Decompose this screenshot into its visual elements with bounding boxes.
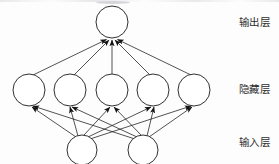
node-output-1 (96, 6, 128, 38)
neural-network-diagram: 输出层 隐藏层 输入层 (0, 0, 279, 164)
edge-h5-o1 (118, 40, 192, 76)
edge-i2-h5 (149, 107, 192, 137)
layer-label-input: 输入层 (239, 136, 270, 148)
node-group-input-layer (67, 135, 158, 164)
edge-h4-o1 (115, 40, 150, 75)
node-input-1 (67, 135, 97, 164)
edge-i2-h1 (33, 106, 135, 139)
edge-i2-h3 (114, 107, 141, 135)
network-graph-canvas (0, 0, 279, 164)
node-group-hidden-layer (13, 74, 210, 106)
edge-h1-o1 (33, 40, 107, 76)
edge-h2-o1 (74, 40, 109, 75)
node-hidden-2 (54, 74, 86, 106)
node-hidden-4 (137, 74, 169, 106)
node-hidden-5 (178, 74, 210, 106)
edge-group-input-to-hidden (32, 106, 192, 139)
edge-i1-h3 (84, 107, 110, 135)
layer-label-hidden: 隐藏层 (239, 83, 270, 95)
edge-group-hidden-to-output (33, 40, 191, 76)
edge-i1-h2 (70, 107, 78, 136)
node-hidden-3 (96, 74, 128, 106)
node-group-output-layer (96, 6, 128, 38)
edge-i2-h4 (147, 107, 154, 136)
node-input-2 (128, 135, 158, 164)
node-hidden-1 (13, 74, 45, 106)
layer-label-output: 输出层 (239, 16, 270, 28)
edge-i1-h1 (32, 107, 76, 137)
